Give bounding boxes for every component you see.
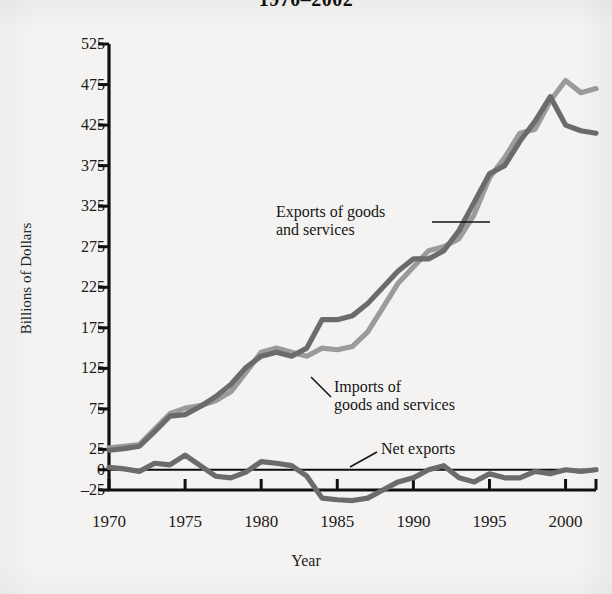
exports-annotation: Exports of goods and services [276, 203, 385, 239]
annotation-leader-lines [311, 222, 490, 467]
chart-figure: 1970–2002 Billions of Dollars Year –2502… [0, 0, 612, 594]
series-line [109, 455, 596, 500]
axis-lines [98, 44, 596, 490]
imports-annotation: Imports of goods and services [334, 378, 455, 414]
plot-area [0, 0, 612, 594]
net-exports-annotation: Net exports [381, 440, 455, 458]
data-lines [109, 80, 596, 500]
